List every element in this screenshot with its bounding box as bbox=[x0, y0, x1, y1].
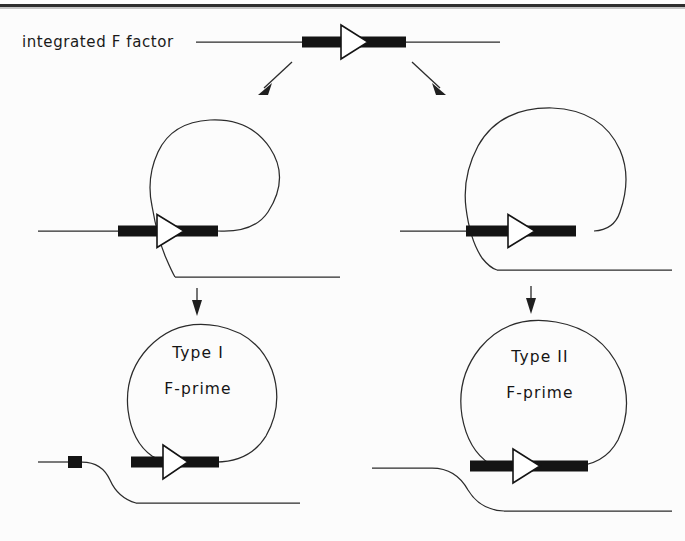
type-i-subtitle: F-prime bbox=[164, 380, 231, 398]
type-ii-subtitle: F-prime bbox=[506, 384, 573, 402]
page-top-rule-shadow bbox=[0, 8, 685, 9]
figure-root: integrated F factor bbox=[0, 0, 685, 541]
genetics-diagram: integrated F factor bbox=[0, 0, 685, 541]
type-i-title: Type I bbox=[171, 344, 224, 362]
page-top-rule bbox=[0, 4, 685, 7]
integrated-f-factor-label: integrated F factor bbox=[22, 33, 174, 51]
host-marker-square bbox=[68, 456, 82, 468]
type-ii-title: Type II bbox=[510, 348, 568, 366]
